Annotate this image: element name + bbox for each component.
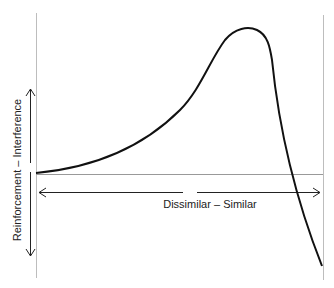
horizontal-double-arrow	[39, 188, 320, 197]
x-axis-label: Dissimilar – Similar	[130, 198, 290, 210]
interference-curve	[36, 28, 322, 266]
vertical-double-arrow	[26, 89, 35, 256]
y-axis-label: Reinforcement – Interference	[11, 85, 23, 255]
diagram-canvas	[0, 0, 334, 288]
